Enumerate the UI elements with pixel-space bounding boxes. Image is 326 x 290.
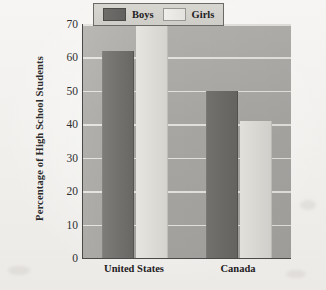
- legend-label: Boys: [132, 9, 154, 20]
- boys-swatch-icon: [103, 8, 126, 21]
- y-axis-tick-labels: 010203040506070: [46, 24, 78, 258]
- bar-chart-figure: Percentage of High School Students 01020…: [0, 0, 326, 290]
- scan-smudge: [300, 200, 316, 210]
- y-tick-label: 20: [46, 185, 78, 197]
- legend-entry-girls: Girls: [163, 8, 215, 21]
- x-category-label-canada: Canada: [220, 263, 255, 274]
- y-tick-label: 30: [46, 152, 78, 164]
- y-tick-label: 50: [46, 85, 78, 97]
- chart-legend: BoysGirls: [93, 3, 224, 26]
- y-axis-title: Percentage of High School Students: [34, 29, 45, 249]
- y-tick-label: 10: [46, 219, 78, 231]
- bar-united-states-girls: [136, 24, 168, 258]
- legend-label: Girls: [192, 9, 215, 20]
- scan-smudge: [8, 266, 30, 275]
- bar-united-states-boys: [102, 51, 134, 258]
- bar-canada-girls: [240, 121, 272, 258]
- y-tick-label: 0: [46, 252, 78, 264]
- y-tick-label: 60: [46, 51, 78, 63]
- girls-swatch-icon: [163, 8, 186, 21]
- y-tick-label: 40: [46, 118, 78, 130]
- x-category-label-united-states: United States: [104, 263, 164, 274]
- x-axis-category-labels: United StatesCanada: [82, 263, 290, 283]
- legend-entry-boys: Boys: [103, 8, 154, 21]
- y-tick-label: 70: [46, 18, 78, 30]
- bar-canada-boys: [206, 91, 238, 258]
- plot-area: [82, 24, 291, 259]
